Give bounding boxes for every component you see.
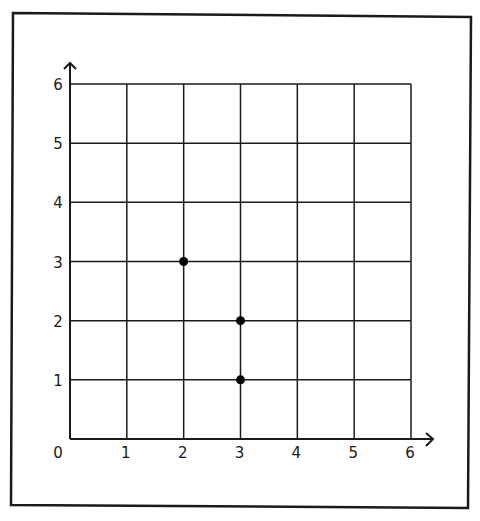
y-tick-label: 2	[53, 313, 63, 331]
y-tick-label: 6	[53, 76, 63, 94]
x-axis-tick-labels: 0123456	[53, 444, 415, 462]
data-point	[236, 375, 245, 384]
x-tick-label: 6	[405, 444, 415, 462]
y-tick-label: 3	[53, 254, 63, 272]
x-tick-label: 0	[53, 444, 63, 462]
y-tick-label: 5	[53, 135, 63, 153]
x-tick-label: 4	[292, 444, 302, 462]
y-axis-tick-labels: 123456	[53, 76, 63, 390]
data-point	[179, 257, 188, 266]
x-tick-label: 1	[121, 444, 131, 462]
x-tick-label: 5	[348, 444, 358, 462]
gridlines	[70, 84, 411, 439]
x-tick-label: 3	[235, 444, 245, 462]
axes	[64, 63, 433, 446]
coordinate-grid-figure: 0123456 123456	[0, 0, 480, 521]
y-tick-label: 4	[53, 194, 63, 212]
data-point	[236, 316, 245, 325]
x-tick-label: 2	[178, 444, 188, 462]
y-tick-label: 1	[53, 372, 63, 390]
